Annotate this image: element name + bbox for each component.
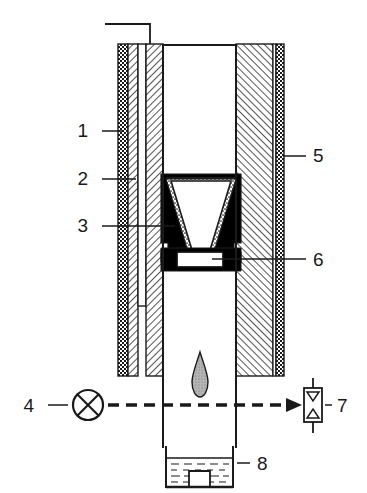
callout-layer: 12345678 — [23, 120, 347, 474]
gas-supply-valve — [73, 390, 103, 420]
cone-crucible-assembly — [161, 174, 241, 271]
thermocouple-channel — [138, 44, 146, 306]
beaker-bottom-notch — [189, 471, 210, 487]
callout-4: 4 — [23, 395, 68, 416]
furnace-left-wall — [118, 44, 163, 376]
callout-7: 7 — [325, 395, 348, 416]
callout-label-8: 8 — [257, 453, 268, 474]
outer-checkered-jacket — [118, 44, 128, 376]
collection-beaker — [166, 446, 233, 487]
flow-meter-valve — [304, 378, 322, 433]
falling-droplet — [192, 352, 208, 397]
callout-5: 5 — [283, 145, 324, 166]
callout-label-4: 4 — [23, 395, 34, 416]
right-checkered-jacket — [276, 44, 284, 376]
gas-flow-arrow — [108, 398, 302, 412]
callout-label-3: 3 — [77, 215, 88, 236]
callout-1: 1 — [77, 120, 124, 141]
callout-label-1: 1 — [77, 120, 88, 141]
callout-label-6: 6 — [313, 249, 324, 270]
furnace-right-wall — [236, 44, 284, 376]
apparatus-cross-section-diagram: 12345678 — [0, 0, 367, 493]
callout-label-7: 7 — [337, 395, 348, 416]
callout-8: 8 — [237, 453, 268, 474]
left-middle-hatch-layer — [128, 44, 138, 376]
callout-label-5: 5 — [313, 145, 324, 166]
callout-label-2: 2 — [77, 168, 88, 189]
figure-root: 12345678 — [0, 0, 367, 493]
